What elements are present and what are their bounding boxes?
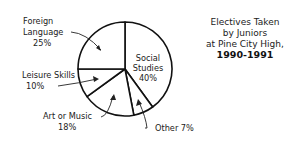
label-social-studies-value: 40% (139, 73, 157, 83)
pie-slice-foreign-language (78, 22, 125, 69)
chart-title-years: 1990-1991 (217, 49, 274, 60)
label-art-or-music-value: 18% (58, 122, 76, 132)
label-social-studies-line2: Studies (133, 63, 163, 73)
label-leisure-skills: Leisure Skills (22, 70, 75, 80)
pie-chart: Social Studies 40% Foreign Language 25% … (0, 0, 296, 142)
label-foreign-language-line2: Language (23, 27, 63, 37)
label-other: Other 7% (155, 123, 194, 133)
label-social-studies-line1: Social (136, 53, 160, 63)
chart-title-line2: by Juniors (223, 28, 268, 38)
chart-title-line3: at Pine City High, (206, 39, 284, 49)
chart-title-line1: Electives Taken (211, 17, 280, 27)
label-foreign-language-line1: Foreign (23, 16, 53, 26)
label-leisure-skills-value: 10% (26, 81, 44, 91)
label-foreign-language-value: 25% (33, 38, 51, 48)
label-art-or-music: Art or Music (43, 111, 92, 121)
